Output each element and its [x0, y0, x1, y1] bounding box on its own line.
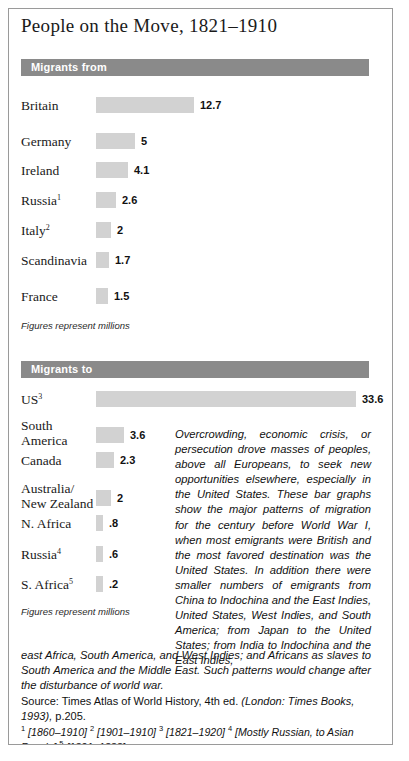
- bar-category-label: Ireland: [21, 163, 59, 178]
- bar-fill: [96, 252, 109, 268]
- bar: [96, 546, 103, 562]
- footnote-text: [1821–1888]: [63, 741, 125, 746]
- bar-fill: [96, 576, 103, 592]
- bar-value-label: .8: [109, 515, 118, 531]
- bar: [96, 252, 109, 268]
- bar: [96, 515, 103, 531]
- bar-fill: [96, 515, 103, 531]
- bar: [96, 576, 103, 592]
- source-prefix: Source: Times Atlas of World History, 4t…: [21, 695, 241, 707]
- bar-fill: [96, 391, 356, 407]
- footnote-marker: 2: [46, 223, 50, 232]
- bar: [96, 97, 194, 113]
- bar-value-label: 5: [141, 133, 147, 149]
- bar-fill: [96, 97, 194, 113]
- card-inner: People on the Move, 1821–1910 Migrants f…: [9, 9, 392, 744]
- bar: [96, 490, 111, 506]
- bar: [96, 427, 124, 443]
- bar-category-label: Italy2: [21, 223, 50, 238]
- bar-value-label: 2: [117, 222, 123, 238]
- bar-category-label: Russia4: [21, 547, 61, 562]
- infographic-card: People on the Move, 1821–1910 Migrants f…: [8, 8, 393, 745]
- footnote-text: [1860–1910]: [25, 726, 90, 738]
- bar-fill: [96, 222, 111, 238]
- bar-category-label: France: [21, 289, 58, 304]
- bar-fill: [96, 427, 124, 443]
- bar: [96, 133, 135, 149]
- bar-category-label: Germany: [21, 134, 71, 149]
- bar-fill: [96, 192, 116, 208]
- section-band-label: Migrants from: [31, 60, 107, 75]
- section-band-migrants-to: Migrants to: [21, 361, 369, 378]
- bar-row: Italy22: [9, 222, 392, 256]
- bar-category-label: Scandinavia: [21, 253, 87, 268]
- figures-caption-to: Figures represent millions: [21, 606, 130, 617]
- bar: [96, 452, 114, 468]
- bar-value-label: 2: [117, 490, 123, 506]
- bar-category-label: Canada: [21, 453, 61, 468]
- bar-fill: [96, 452, 114, 468]
- bar-category-label: S. Africa5: [21, 577, 73, 592]
- bar: [96, 162, 128, 178]
- bar-category-label: SouthAmerica: [21, 418, 67, 448]
- bar-value-label: 2.3: [120, 452, 135, 468]
- bar: [96, 222, 111, 238]
- bar-value-label: 33.6: [362, 391, 383, 407]
- bar-row: Britain12.7: [9, 97, 392, 131]
- bar-category-label: N. Africa: [21, 516, 71, 531]
- bar-category-label: Russia1: [21, 193, 61, 208]
- narrative-full-width-text: east Africa, South America, and West Ind…: [21, 648, 371, 693]
- bar-value-label: .2: [109, 576, 118, 592]
- bar: [96, 192, 116, 208]
- bar-value-label: 12.7: [200, 97, 221, 113]
- bar-fill: [96, 133, 135, 149]
- bar-row: Russia12.6: [9, 192, 392, 226]
- bar-value-label: 1.7: [115, 252, 130, 268]
- bar-fill: [96, 490, 111, 506]
- bar-fill: [96, 546, 103, 562]
- source-suffix: p.205.: [52, 710, 86, 722]
- footnote-marker: 4: [57, 547, 61, 556]
- footnote-marker: 5: [69, 577, 73, 586]
- footnote-text: [1901–1910]: [94, 726, 159, 738]
- footnotes-list: 1 [1860–1910] 2 [1901–1910] 3 [1821–1920…: [21, 725, 373, 745]
- bar-value-label: 2.6: [122, 192, 137, 208]
- bar-row: Scandinavia1.7: [9, 252, 392, 286]
- bar-value-label: 1.5: [114, 288, 129, 304]
- section-band-migrants-from: Migrants from: [21, 59, 369, 76]
- footnote-marker: 1: [57, 193, 61, 202]
- bar-value-label: .6: [109, 546, 118, 562]
- narrative-column-text: Overcrowding, economic crisis, or persec…: [175, 427, 371, 669]
- bar-row: Ireland4.1: [9, 162, 392, 196]
- bar-fill: [96, 288, 108, 304]
- figures-caption-from: Figures represent millions: [21, 320, 130, 331]
- bar-category-label: Britain: [21, 98, 59, 113]
- bar-row: France1.5: [9, 288, 392, 322]
- bar-value-label: 3.6: [130, 427, 145, 443]
- bar-value-label: 4.1: [134, 162, 149, 178]
- footnote-marker: 3: [38, 392, 42, 401]
- bar-fill: [96, 162, 128, 178]
- bar-category-label: Australia/New Zealand: [21, 481, 93, 511]
- section-band-label: Migrants to: [31, 362, 92, 377]
- bar: [96, 391, 356, 407]
- source-citation: Source: Times Atlas of World History, 4t…: [21, 694, 373, 723]
- bar: [96, 288, 108, 304]
- bar-category-label: US3: [21, 392, 42, 407]
- footnote-text: [1821–1920]: [163, 726, 228, 738]
- page-title: People on the Move, 1821–1910: [21, 15, 277, 37]
